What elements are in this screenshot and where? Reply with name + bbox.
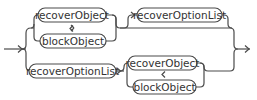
railroad-diagram: recoverObject blockObject recoverOptionL… <box>0 0 257 100</box>
bottom-recover-object-label: recoverObject <box>126 57 200 69</box>
bottom-block-object-label: blockObject <box>133 81 195 93</box>
bottom-recover-option-list-label: recoverOptionList <box>26 65 119 77</box>
top-optional: recoverOptionList <box>120 8 238 49</box>
top-block-object-label: blockObject <box>42 35 104 47</box>
top-recover-option-list-label: recoverOptionList <box>133 9 226 21</box>
exit-path <box>238 46 250 53</box>
top-recover-object-label: recoverObject <box>35 9 109 21</box>
loop-back-arrow-icon <box>70 26 73 32</box>
bottom-branch: recoverOptionList recoverObject blockObj… <box>26 49 238 94</box>
top-loop: recoverObject blockObject <box>31 8 124 48</box>
bottom-loop-back-arrow-icon <box>162 72 165 78</box>
